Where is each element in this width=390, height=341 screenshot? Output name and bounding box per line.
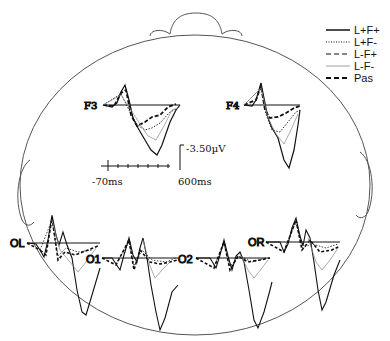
head-outline bbox=[18, 13, 372, 335]
erp-trace-ol: OL bbox=[10, 215, 100, 315]
calibration-scale bbox=[101, 145, 184, 171]
legend-label: L-F- bbox=[354, 60, 375, 72]
legend: L+F+ L+F- L-F+ L-F- Pas bbox=[326, 24, 380, 84]
legend-label: L+F- bbox=[354, 36, 377, 48]
electrode-label-or: OR bbox=[248, 236, 265, 248]
erp-trace-f4: F4 bbox=[226, 83, 300, 168]
electrode-label-f3: F3 bbox=[84, 100, 97, 111]
erp-trace-f3: F3 bbox=[84, 85, 180, 155]
amplitude-scale-label: -3.50µV bbox=[186, 143, 226, 154]
electrode-label-o1: O1 bbox=[86, 253, 101, 265]
electrode-label-o2: O2 bbox=[178, 253, 193, 265]
legend-label: L-F+ bbox=[354, 48, 377, 60]
legend-label: Pas bbox=[354, 72, 373, 84]
erp-trace-or: OR bbox=[248, 218, 340, 310]
erp-trace-o2: O2 bbox=[178, 240, 272, 328]
erp-trace-o1: O1 bbox=[86, 238, 178, 330]
time-start-label: -70ms bbox=[92, 176, 123, 187]
electrode-label-f4: F4 bbox=[226, 100, 239, 111]
electrode-label-ol: OL bbox=[10, 237, 25, 249]
time-end-label: 600ms bbox=[178, 176, 212, 187]
erp-head-diagram: F3 F4 -3.50µV -70ms 600ms OL bbox=[0, 0, 390, 341]
legend-label: L+F+ bbox=[354, 24, 380, 36]
nose-icon bbox=[170, 13, 222, 34]
